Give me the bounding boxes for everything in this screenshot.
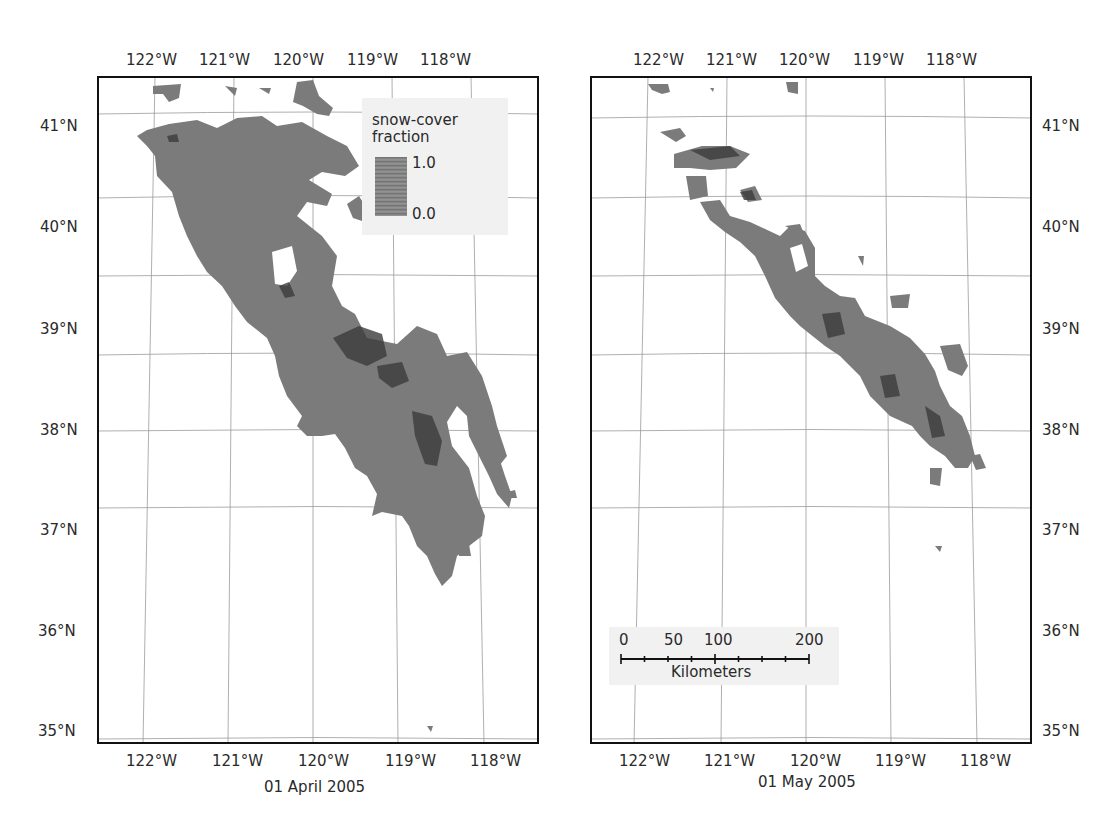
scale-label-0: 0 [619,631,629,649]
lon-label-top: 120°W [273,51,324,69]
lat-label: 37°N [40,521,78,539]
lat-label: 40°N [1042,218,1080,236]
lon-label-top: 121°W [706,51,757,69]
lat-label: 38°N [40,421,78,439]
lat-label: 41°N [40,117,78,135]
lon-label-bottom: 120°W [298,752,349,770]
panel-caption-may: 01 May 2005 [758,773,856,791]
lat-label: 41°N [1042,117,1080,135]
lat-label: 38°N [1042,421,1080,439]
lon-label-top: 119°W [347,51,398,69]
map-panel-april: 122°W 121°W 120°W 119°W 118°W 41°N 40°N … [0,0,560,833]
lon-label-bottom: 118°W [470,752,521,770]
lon-label-bottom: 120°W [790,752,841,770]
lon-label-bottom: 122°W [619,752,670,770]
panel-caption-april: 01 April 2005 [264,778,365,796]
lon-label-bottom: 122°W [126,752,177,770]
lon-label-top: 122°W [126,51,177,69]
lon-label-bottom: 121°W [704,752,755,770]
lat-label: 35°N [1042,722,1080,740]
lat-label: 39°N [1042,320,1080,338]
lat-label: 37°N [1042,521,1080,539]
lon-label-top: 121°W [199,51,250,69]
scale-label-200: 200 [795,631,824,649]
lon-label-bottom: 119°W [875,752,926,770]
scale-bar: 0 50 100 200 Kilometers [609,627,839,685]
lon-label-top: 122°W [633,51,684,69]
legend-min-label: 0.0 [412,205,436,223]
lon-label-top: 120°W [779,51,830,69]
lat-label: 35°N [38,722,76,740]
lat-label: 36°N [38,622,76,640]
legend-color-ramp [375,157,407,216]
lon-label-bottom: 121°W [212,752,263,770]
lat-label: 39°N [40,320,78,338]
lat-label: 36°N [1042,622,1080,640]
scale-unit-label: Kilometers [671,663,751,681]
scale-label-50: 50 [664,631,683,649]
lon-label-bottom: 118°W [960,752,1011,770]
lon-label-top: 118°W [926,51,977,69]
lat-label: 40°N [40,218,78,236]
map-panel-may: 122°W 121°W 120°W 119°W 118°W [557,0,1117,833]
lon-label-bottom: 119°W [385,752,436,770]
lon-label-top: 118°W [420,51,471,69]
legend-title-line1: snow-cover [372,112,458,129]
legend-max-label: 1.0 [412,154,436,172]
legend-title-line2: fraction [372,129,430,146]
scale-label-100: 100 [704,631,733,649]
legend: snow-cover fraction 1.0 0.0 [362,98,508,235]
lon-label-top: 119°W [853,51,904,69]
